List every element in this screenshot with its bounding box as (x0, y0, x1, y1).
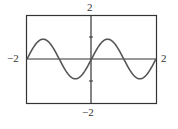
y-max-label: 2 (87, 2, 93, 13)
y-min-label: −2 (82, 107, 94, 118)
x-max-label: 2 (161, 53, 167, 64)
x-min-label: −2 (7, 53, 19, 64)
